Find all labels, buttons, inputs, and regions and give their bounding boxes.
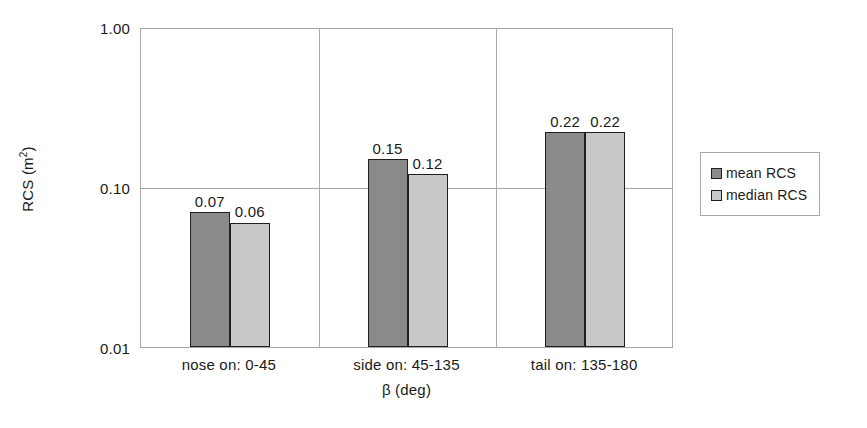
- bar-value-label: 0.12: [398, 156, 458, 171]
- chart-figure: RCS (m2) 1.000.100.01 0.070.060.150.120.…: [0, 0, 867, 428]
- y-axis-tick-label: 1.00: [68, 21, 130, 36]
- y-axis-title-base: RCS (m: [19, 157, 36, 212]
- bar-median[interactable]: [408, 174, 448, 347]
- bar-mean[interactable]: [545, 132, 585, 347]
- x-axis-title: β (deg): [140, 381, 673, 398]
- bar-value-label: 0.15: [358, 141, 418, 156]
- y-axis-tick-label: 0.10: [68, 181, 130, 196]
- legend-label: mean RCS: [726, 166, 796, 180]
- legend-swatch-icon: [711, 168, 722, 179]
- y-axis-title-tail: ): [19, 146, 36, 151]
- bar-value-label: 0.22: [575, 114, 635, 129]
- y-axis-title: RCS (m2): [18, 119, 36, 239]
- legend-swatch-icon: [711, 190, 722, 201]
- bar-mean[interactable]: [190, 212, 230, 347]
- x-axis-category-labels: nose on: 0-45side on: 45-135tail on: 135…: [140, 356, 673, 376]
- chart-legend: mean RCSmedian RCS: [700, 152, 820, 216]
- y-axis-tick-labels: 1.000.100.01: [68, 0, 130, 428]
- category-separator-line: [319, 29, 320, 347]
- x-axis-category-label: side on: 45-135: [318, 356, 496, 374]
- bar-median[interactable]: [585, 132, 625, 347]
- bar-mean[interactable]: [368, 159, 408, 347]
- plot-area: 0.070.060.150.120.220.22: [140, 28, 673, 348]
- legend-entry[interactable]: median RCS: [711, 184, 807, 206]
- y-axis-tick-label: 0.01: [68, 341, 130, 356]
- category-separator-line: [496, 29, 497, 347]
- legend-label: median RCS: [726, 188, 807, 202]
- bar-median[interactable]: [230, 223, 270, 348]
- y-axis-title-superscript: 2: [18, 151, 29, 157]
- bar-value-label: 0.06: [220, 204, 280, 219]
- x-axis-category-label: nose on: 0-45: [140, 356, 318, 374]
- legend-entry[interactable]: mean RCS: [711, 162, 807, 184]
- x-axis-category-label: tail on: 135-180: [495, 356, 673, 374]
